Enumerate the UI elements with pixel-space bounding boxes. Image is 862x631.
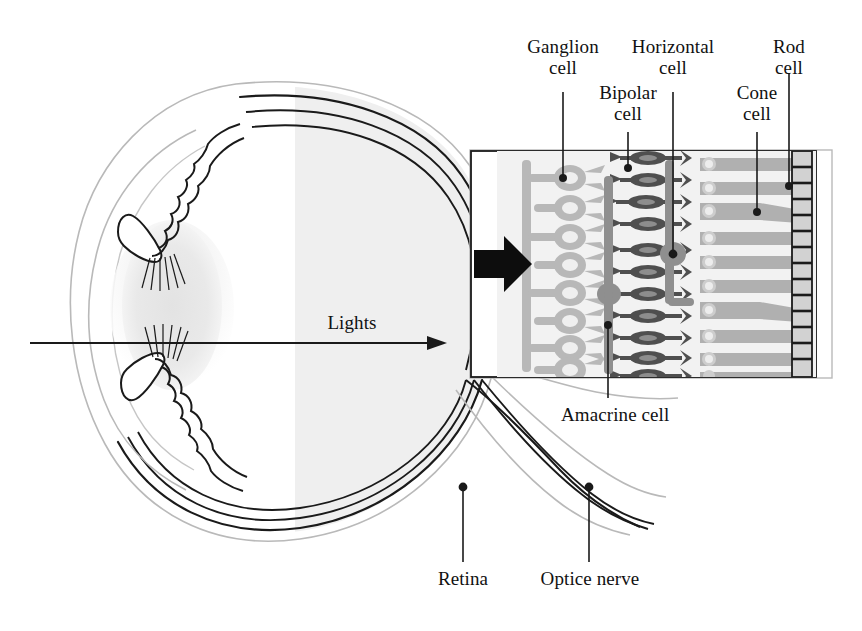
leader-retina: [459, 483, 466, 562]
label-rod-cell: Rod cell: [744, 36, 834, 78]
pigment-epithelium: [792, 151, 812, 377]
label-horizontal-cell: Horizontal cell: [613, 36, 733, 78]
label-ganglion-cell: Ganglion cell: [503, 36, 623, 78]
label-amacrine-cell: Amacrine cell: [561, 404, 761, 425]
eye-retina-figure: Ganglion cell Bipolar cell Horizontal ce…: [0, 0, 862, 631]
label-retina: Retina: [413, 568, 513, 589]
retina-inset: [470, 150, 832, 384]
label-cone-cell: Cone cell: [702, 82, 812, 124]
optic-nerve: [456, 366, 678, 535]
label-bipolar-cell: Bipolar cell: [573, 82, 683, 124]
label-optic-nerve: Optice nerve: [519, 568, 661, 589]
label-lights: Lights: [307, 312, 397, 333]
